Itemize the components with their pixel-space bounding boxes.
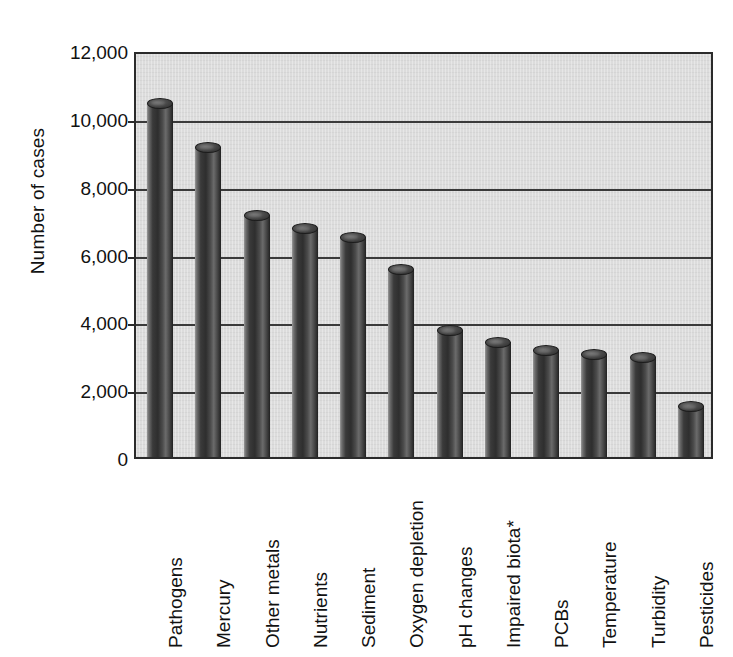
- bar-cap-highlight: [634, 356, 648, 360]
- bar-cap-highlight: [199, 145, 213, 149]
- bar-body: [388, 269, 414, 457]
- x-axis-category-label: Turbidity: [649, 576, 668, 648]
- bar: [195, 147, 221, 457]
- bar: [292, 228, 318, 457]
- bar-cap-highlight: [537, 349, 551, 353]
- x-axis-category-label: PCBs: [552, 599, 571, 648]
- bar-body: [437, 330, 463, 457]
- bar-cap-highlight: [151, 101, 165, 105]
- y-axis-tickmark: [128, 324, 136, 326]
- y-axis-tickmark: [128, 257, 136, 259]
- y-axis-tick-label: 4,000: [4, 314, 128, 333]
- bar-top-cap: [340, 232, 366, 243]
- bar-top-cap: [437, 325, 463, 336]
- bar-body: [485, 342, 511, 457]
- bar-body: [147, 103, 173, 457]
- bar: [437, 330, 463, 457]
- bar-cap-highlight: [585, 352, 599, 356]
- x-axis-category-label: Oxygen depletion: [407, 500, 426, 648]
- bar: [630, 357, 656, 457]
- bar-body: [678, 406, 704, 457]
- bar-cap-highlight: [441, 329, 455, 333]
- x-axis-category-label: Pesticides: [697, 561, 716, 648]
- y-axis-tickmark: [128, 392, 136, 394]
- bar: [340, 237, 366, 457]
- bar-chart-figure: Number of cases 02,0004,0006,0008,00010,…: [0, 0, 733, 657]
- bar-cap-highlight: [489, 340, 503, 344]
- bar-body: [581, 354, 607, 457]
- bar: [533, 350, 559, 457]
- bar-top-cap: [388, 264, 414, 275]
- bar: [485, 342, 511, 457]
- x-axis-category-label: Other metals: [263, 539, 282, 648]
- bar-cap-highlight: [344, 235, 358, 239]
- bar: [581, 354, 607, 457]
- y-axis-tick-label: 12,000: [4, 43, 128, 62]
- y-axis-tick-label: 10,000: [4, 111, 128, 130]
- bar: [244, 215, 270, 458]
- bar: [147, 103, 173, 457]
- bar-top-cap: [678, 401, 704, 412]
- y-axis-tick-label: 8,000: [4, 179, 128, 198]
- y-axis-tick-label: 0: [4, 450, 128, 469]
- bar: [388, 269, 414, 457]
- bar-body: [292, 228, 318, 457]
- bar: [678, 406, 704, 457]
- x-axis-category-label: Impaired biota*: [504, 520, 523, 648]
- bar-top-cap: [581, 349, 607, 360]
- bar-top-cap: [630, 352, 656, 363]
- x-axis-category-label-group: PathogensMercuryOther metalsNutrientsSed…: [134, 463, 713, 653]
- bar-cap-highlight: [296, 227, 310, 231]
- bar-top-cap: [292, 223, 318, 234]
- bar-top-cap: [147, 98, 173, 109]
- bar-series: [136, 54, 711, 457]
- y-axis-tickmark: [128, 189, 136, 191]
- bar-top-cap: [485, 337, 511, 348]
- bar-top-cap: [244, 210, 270, 221]
- bar-body: [244, 215, 270, 458]
- bar-body: [340, 237, 366, 457]
- plot-area: [134, 52, 713, 459]
- x-axis-category-label: Temperature: [600, 541, 619, 648]
- x-axis-category-label: pH changes: [456, 547, 475, 648]
- y-axis-tick-label-group: 02,0004,0006,0008,00010,00012,000: [0, 0, 128, 657]
- y-axis-tick-label: 2,000: [4, 382, 128, 401]
- bar-cap-highlight: [248, 213, 262, 217]
- bar-body: [195, 147, 221, 457]
- y-axis-tick-label: 6,000: [4, 247, 128, 266]
- x-axis-category-label: Mercury: [214, 579, 233, 648]
- bar-body: [533, 350, 559, 457]
- bar-top-cap: [195, 142, 221, 153]
- bar-cap-highlight: [392, 267, 406, 271]
- y-axis-tickmark: [128, 121, 136, 123]
- x-axis-category-label: Nutrients: [311, 572, 330, 648]
- bar-body: [630, 357, 656, 457]
- x-axis-category-label: Sediment: [359, 568, 378, 648]
- x-axis-category-label: Pathogens: [166, 557, 185, 648]
- bar-cap-highlight: [682, 405, 696, 409]
